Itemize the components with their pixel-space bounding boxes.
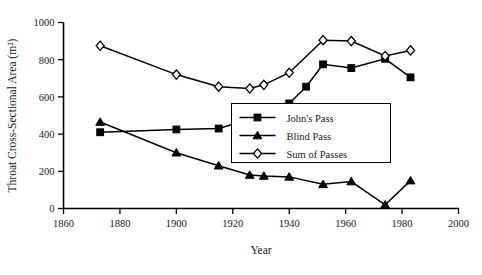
x-axis-title: Year (250, 244, 271, 256)
line-chart: 1860188019001920194019601980200002004006… (0, 0, 482, 275)
x-tick-label: 1960 (335, 218, 356, 229)
marker-square (348, 65, 355, 72)
marker-triangle (406, 176, 415, 184)
legend-label: Sum of Passes (287, 149, 348, 160)
legend-label: John's Pass (287, 113, 334, 124)
marker-diamond (246, 84, 254, 93)
x-tick-label: 2000 (448, 218, 469, 229)
marker-triangle (347, 177, 356, 185)
y-tick-label: 800 (39, 55, 55, 66)
chart-legend: John's PassBlind PassSum of Passes (232, 104, 391, 163)
x-tick-label: 1940 (279, 218, 300, 229)
marker-triangle (96, 118, 105, 126)
marker-square (173, 126, 180, 133)
x-tick-label: 1920 (222, 218, 243, 229)
marker-square (97, 129, 104, 136)
marker-square (407, 74, 414, 81)
y-axis-title: Throat Cross-Sectional Area (m²) (6, 38, 19, 192)
x-tick-label: 1860 (53, 218, 74, 229)
marker-diamond (260, 80, 268, 89)
x-tick-label: 1880 (109, 218, 130, 229)
y-tick-label: 400 (39, 129, 55, 140)
marker-square (254, 114, 261, 121)
y-tick-label: 0 (49, 203, 54, 214)
marker-diamond (96, 41, 104, 50)
y-tick-label: 1000 (34, 17, 55, 28)
x-tick-label: 1980 (392, 218, 413, 229)
marker-square (215, 125, 222, 132)
legend-label: Blind Pass (287, 131, 332, 142)
marker-diamond (172, 70, 180, 79)
marker-square (320, 61, 327, 68)
marker-diamond (347, 37, 355, 46)
y-tick-label: 600 (39, 92, 55, 103)
chart-container: 1860188019001920194019601980200002004006… (0, 0, 482, 275)
marker-diamond (407, 46, 415, 55)
marker-square (303, 83, 310, 90)
x-tick-label: 1900 (166, 218, 187, 229)
y-tick-label: 200 (39, 166, 55, 177)
marker-diamond (215, 82, 223, 91)
